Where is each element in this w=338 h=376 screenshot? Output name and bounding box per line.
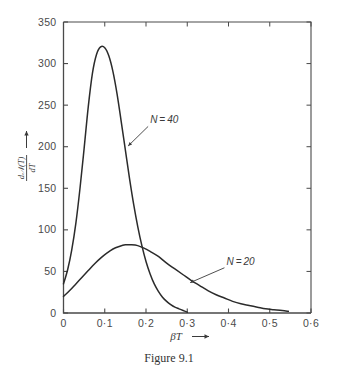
annotation-leader-line xyxy=(128,126,148,146)
annotation-leader-line xyxy=(190,268,224,283)
y-axis-title-denominator: dT xyxy=(27,162,37,172)
figure-container: 00·10·20·30·40·50·6 05010015020025030035… xyxy=(0,0,338,376)
y-tick-label: 350 xyxy=(38,16,56,28)
annotation-1: N = 40 xyxy=(128,114,179,146)
x-axis-title-text: βT xyxy=(169,330,182,342)
x-axis-tick-labels: 00·10·20·30·40·50·6 xyxy=(60,317,319,329)
series-annotations: N = 40N = 20 xyxy=(128,114,255,282)
annotation-label: N = 20 xyxy=(226,256,255,267)
y-tick-label: 150 xyxy=(38,182,56,194)
series-curve-1 xyxy=(64,46,188,312)
annotation-label: N = 40 xyxy=(150,114,179,125)
x-axis-title: βT xyxy=(169,330,209,342)
x-tick-label: 0·2 xyxy=(138,317,154,329)
data-series-group xyxy=(64,46,289,312)
x-tick-label: 0·4 xyxy=(220,317,236,329)
x-axis-arrow-icon xyxy=(192,334,209,338)
plot-frame xyxy=(64,22,312,313)
y-tick-label: 200 xyxy=(38,140,56,152)
y-tick-label: 100 xyxy=(38,223,56,235)
y-tick-label: 300 xyxy=(38,57,56,69)
x-tick-label: 0·6 xyxy=(303,317,319,329)
annotation-2: N = 20 xyxy=(190,256,255,283)
y-axis-arrow-icon xyxy=(24,131,28,148)
y-tick-label: 50 xyxy=(44,265,56,277)
x-tick-label: 0·5 xyxy=(262,317,278,329)
figure-caption: Figure 9.1 xyxy=(144,351,193,365)
series-curve-2 xyxy=(64,245,289,312)
x-tick-label: 0·3 xyxy=(179,317,195,329)
y-axis-title-numerator: d𝒩(T) xyxy=(16,157,26,180)
x-tick-label: 0·1 xyxy=(97,317,113,329)
x-tick-label: 0 xyxy=(60,317,66,329)
y-tick-label: 0 xyxy=(50,307,56,319)
chart-canvas: 00·10·20·30·40·50·6 05010015020025030035… xyxy=(0,0,338,376)
x-axis-ticks xyxy=(64,22,312,313)
y-axis-title: d𝒩(T) dT xyxy=(16,131,37,181)
y-axis-tick-labels: 050100150200250300350 xyxy=(38,16,56,319)
y-tick-label: 250 xyxy=(38,99,56,111)
y-axis-ticks xyxy=(64,22,312,313)
